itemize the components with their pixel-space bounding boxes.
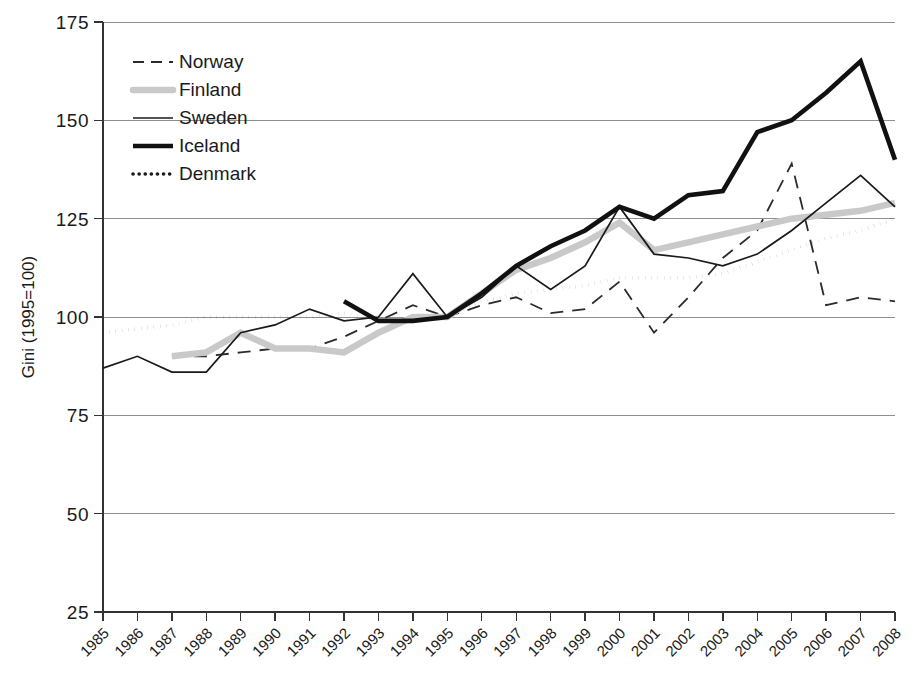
x-tick-label-1995: 1995 — [421, 624, 457, 660]
x-tick-label-1999: 1999 — [559, 624, 595, 660]
gini-index-line-chart: 175150125100755025 198519861987198819891… — [0, 0, 913, 677]
x-tick-label-2000: 2000 — [593, 624, 629, 660]
x-tick-label-1990: 1990 — [249, 624, 285, 660]
x-tick-label-2002: 2002 — [662, 624, 698, 660]
legend-label-denmark: Denmark — [179, 163, 257, 184]
y-tick-label-25: 25 — [67, 602, 89, 623]
x-tick-label-2001: 2001 — [627, 624, 663, 660]
y-axis-title: Gini (1995=100) — [19, 256, 38, 378]
legend-label-finland: Finland — [179, 79, 241, 100]
legend-label-sweden: Sweden — [179, 107, 248, 128]
x-tick-label-2007: 2007 — [834, 624, 870, 660]
y-tick-label-150: 150 — [56, 110, 89, 131]
x-tick-label-2003: 2003 — [696, 624, 732, 660]
y-tick-label-50: 50 — [67, 504, 89, 525]
x-tick-label-1986: 1986 — [111, 624, 147, 660]
y-tick-label-175: 175 — [56, 12, 89, 33]
y-tick-label-125: 125 — [56, 209, 89, 230]
x-tick-label-1985: 1985 — [77, 624, 113, 660]
x-tick-label-1993: 1993 — [352, 624, 388, 660]
x-tick-label-1998: 1998 — [524, 624, 560, 660]
series-line-finland — [172, 203, 895, 356]
x-tick-label-1991: 1991 — [283, 624, 319, 660]
x-tick-label-2004: 2004 — [731, 624, 767, 660]
x-axis-ticks: 1985198619871988198919901991199219931994… — [77, 612, 905, 660]
chart-legend: NorwayFinlandSwedenIcelandDenmark — [133, 51, 257, 184]
x-tick-label-1992: 1992 — [318, 624, 354, 660]
chart-container: 175150125100755025 198519861987198819891… — [0, 0, 913, 677]
legend-label-norway: Norway — [179, 51, 244, 72]
x-tick-label-1987: 1987 — [145, 624, 181, 660]
y-tick-label-100: 100 — [56, 307, 89, 328]
series-line-denmark — [103, 219, 895, 333]
x-tick-label-1988: 1988 — [180, 624, 216, 660]
x-tick-label-2005: 2005 — [765, 624, 801, 660]
y-tick-label-75: 75 — [67, 405, 89, 426]
x-tick-label-1996: 1996 — [455, 624, 491, 660]
legend-label-iceland: Iceland — [179, 135, 240, 156]
x-tick-label-1989: 1989 — [214, 624, 250, 660]
x-tick-label-2008: 2008 — [869, 624, 905, 660]
series-line-norway — [172, 164, 895, 357]
x-tick-label-1997: 1997 — [490, 624, 526, 660]
x-tick-label-2006: 2006 — [800, 624, 836, 660]
x-tick-label-1994: 1994 — [386, 624, 422, 660]
y-axis-ticks: 175150125100755025 — [56, 12, 103, 623]
